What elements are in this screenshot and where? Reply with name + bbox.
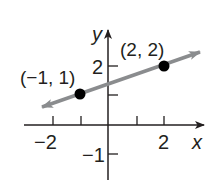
y-tick-label-2: 2 [92, 56, 103, 78]
y-axis-label: y [90, 23, 103, 45]
graph-svg: −2 2 2 −1 x y (−1, 1) (2, 2) [0, 0, 220, 183]
point-label-neg1-1: (−1, 1) [20, 67, 75, 88]
point-neg1-1 [75, 89, 86, 100]
y-tick-label-neg1: −1 [82, 144, 105, 166]
coordinate-plane: −2 2 2 −1 x y (−1, 1) (2, 2) [0, 0, 220, 183]
point-label-2-2: (2, 2) [120, 39, 164, 60]
y-ticks [108, 66, 118, 154]
point-2-2 [159, 61, 170, 72]
x-axis-label: x [191, 131, 203, 153]
x-tick-label-neg2: −2 [34, 131, 57, 153]
x-tick-label-2: 2 [158, 131, 169, 153]
